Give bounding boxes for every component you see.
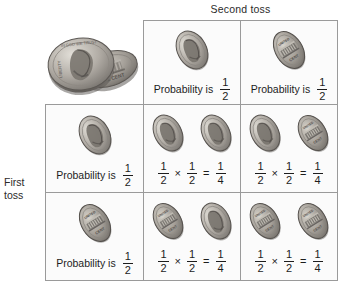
penny-heads-icon xyxy=(147,110,189,156)
fraction-denominator: 2 xyxy=(187,174,197,186)
fraction-numerator: 1 xyxy=(255,161,265,173)
two-pennies-icon: ONE CENT LIBERTY IN GOD WE TRUST xyxy=(45,20,144,105)
penny-heads-icon xyxy=(195,198,237,244)
fraction-denominator: 2 xyxy=(123,264,133,276)
fraction-denominator: 2 xyxy=(123,176,133,188)
fraction-denominator: 2 xyxy=(284,174,294,186)
penny-tails-icon: UNITED CENT xyxy=(292,198,334,244)
corner-coins-illustration: ONE CENT LIBERTY IN GOD WE TRUST xyxy=(45,20,144,105)
probability-fraction: 1 2 xyxy=(220,77,230,102)
probability-fraction: 1 2 xyxy=(123,163,133,188)
multiply-operator: × xyxy=(174,255,182,267)
fraction-denominator: 4 xyxy=(313,262,323,274)
fraction-numerator: 1 xyxy=(158,249,168,261)
probability-label: Probability is xyxy=(56,257,116,269)
multiply-operator: × xyxy=(271,255,279,267)
multiply-operator: × xyxy=(174,167,182,179)
second-toss-heads-cell: Probability is 1 2 xyxy=(143,20,241,105)
first-toss-heading-line1: First xyxy=(4,176,44,189)
fraction-numerator: 1 xyxy=(313,249,323,261)
first-toss-heading-line2: toss xyxy=(4,189,44,202)
fraction-numerator: 1 xyxy=(284,249,294,261)
fraction-numerator: 1 xyxy=(123,163,133,175)
fraction-numerator: 1 xyxy=(284,161,294,173)
penny-heads-icon xyxy=(195,110,237,156)
probability-label: Probability is xyxy=(251,83,311,95)
probability-tree-figure: Second toss First toss xyxy=(0,0,354,296)
probability-fraction: 1 2 xyxy=(317,77,327,102)
fraction-numerator: 1 xyxy=(187,249,197,261)
penny-heads-icon xyxy=(169,27,215,73)
fraction-denominator: 2 xyxy=(255,262,265,274)
fraction-denominator: 2 xyxy=(158,174,168,186)
penny-heads-icon xyxy=(244,110,286,156)
equation-result: 1 4 xyxy=(216,161,226,186)
fraction-denominator: 2 xyxy=(187,262,197,274)
equation-result: 1 4 xyxy=(216,249,226,274)
fraction-denominator: 2 xyxy=(220,90,230,102)
penny-tails-icon: UNITED CENT xyxy=(72,200,118,246)
second-toss-tails-cell: UNITED CENT Probability is 1 2 xyxy=(240,20,338,105)
outcome-cell-heads-heads: 1 2 × 1 2 = 1 4 xyxy=(143,104,241,193)
fraction-numerator: 1 xyxy=(187,161,197,173)
equals-operator: = xyxy=(299,167,307,179)
equals-operator: = xyxy=(202,167,210,179)
equation-result: 1 4 xyxy=(313,249,323,274)
fraction-denominator: 4 xyxy=(216,262,226,274)
first-toss-heading: First toss xyxy=(4,176,44,201)
penny-tails-icon: UNITED CENT xyxy=(266,27,312,73)
fraction-numerator: 1 xyxy=(313,161,323,173)
fraction-denominator: 4 xyxy=(216,174,226,186)
equals-operator: = xyxy=(202,255,210,267)
fraction-denominator: 2 xyxy=(255,174,265,186)
multiply-operator: × xyxy=(271,167,279,179)
equation-operand-left: 1 2 xyxy=(158,161,168,186)
equation-operand-left: 1 2 xyxy=(158,249,168,274)
fraction-numerator: 1 xyxy=(123,251,133,263)
equation-operand-right: 1 2 xyxy=(284,161,294,186)
probability-fraction: 1 2 xyxy=(123,251,133,276)
outcome-cell-tails-heads: UNITED CENT 1 2 × xyxy=(143,192,241,281)
outcome-cell-tails-tails: UNITED CENT xyxy=(240,192,338,281)
fraction-denominator: 2 xyxy=(284,262,294,274)
fraction-denominator: 4 xyxy=(313,174,323,186)
fraction-numerator: 1 xyxy=(158,161,168,173)
fraction-numerator: 1 xyxy=(220,77,230,89)
first-toss-tails-cell: UNITED CENT Probability is 1 2 xyxy=(45,192,144,281)
equation-operand-right: 1 2 xyxy=(284,249,294,274)
second-toss-heading: Second toss xyxy=(143,3,338,15)
penny-tails-icon: UNITED CENT xyxy=(147,198,189,244)
penny-heads-icon xyxy=(72,112,118,158)
first-toss-heads-cell: Probability is 1 2 xyxy=(45,104,144,193)
fraction-denominator: 2 xyxy=(158,262,168,274)
penny-tails-icon: UNITED CENT xyxy=(244,198,286,244)
equation-operand-right: 1 2 xyxy=(187,249,197,274)
penny-tails-icon: UNITED CENT xyxy=(292,110,334,156)
probability-label: Probability is xyxy=(154,83,214,95)
equation-operand-left: 1 2 xyxy=(255,161,265,186)
fraction-denominator: 2 xyxy=(317,90,327,102)
fraction-numerator: 1 xyxy=(255,249,265,261)
fraction-numerator: 1 xyxy=(216,249,226,261)
probability-label: Probability is xyxy=(56,169,116,181)
equation-operand-right: 1 2 xyxy=(187,161,197,186)
equation-operand-left: 1 2 xyxy=(255,249,265,274)
outcome-cell-heads-tails: UNITED CENT 1 2 × 1 2 = 1 4 xyxy=(240,104,338,193)
equals-operator: = xyxy=(299,255,307,267)
fraction-numerator: 1 xyxy=(216,161,226,173)
equation-result: 1 4 xyxy=(313,161,323,186)
fraction-numerator: 1 xyxy=(317,77,327,89)
